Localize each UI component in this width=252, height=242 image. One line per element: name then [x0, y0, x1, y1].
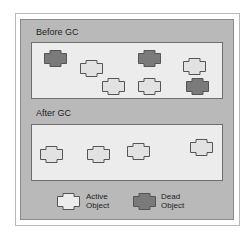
after-active-object-icon	[40, 146, 63, 163]
after-active-object-icon	[87, 146, 110, 163]
before-active-object-icon	[102, 78, 125, 95]
after-active-object-icon	[127, 143, 150, 160]
before-dead-object-icon	[44, 50, 67, 67]
legend-dead-label: Dead Object	[161, 192, 184, 210]
legend-dead-object-icon	[133, 193, 156, 210]
after-active-object-icon	[190, 139, 213, 156]
before-dead-object-icon	[186, 78, 209, 95]
before-gc-title: Before GC	[36, 27, 79, 37]
before-dead-object-icon	[138, 50, 161, 67]
before-active-object-icon	[80, 60, 103, 77]
before-active-object-icon	[138, 78, 161, 95]
after-gc-title: After GC	[36, 108, 71, 118]
legend-active-object-icon	[57, 193, 80, 210]
legend-active-label: Active Object	[86, 192, 109, 210]
before-active-object-icon	[183, 58, 206, 75]
